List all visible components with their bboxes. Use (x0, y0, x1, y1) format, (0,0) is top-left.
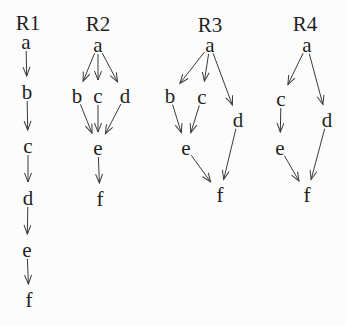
node-r3-d: d (233, 108, 244, 132)
edge-r1-a-b (26, 51, 27, 76)
node-r2-e: e (93, 136, 102, 160)
node-r1-b: b (22, 80, 33, 104)
node-r4-c: c (276, 87, 285, 111)
node-r2-f: f (97, 187, 104, 211)
node-r1-f: f (26, 288, 33, 312)
node-r2-b: b (72, 84, 83, 108)
node-r4-a: a (302, 33, 312, 57)
node-r2-c: c (93, 84, 102, 108)
node-r1-d: d (23, 186, 34, 210)
figure-canvas: R1abcdefR2abcdefR3abcdefR4acdef (0, 0, 346, 326)
node-r2-a: a (93, 33, 103, 57)
figure-background (0, 0, 346, 326)
node-r3-f: f (217, 183, 224, 207)
edge-r4-c-e (280, 108, 281, 132)
node-r3-b: b (165, 84, 176, 108)
edge-r1-b-c (27, 101, 28, 130)
node-r3-a: a (205, 33, 215, 57)
node-r4-d: d (322, 108, 333, 132)
edge-r1-d-e (27, 207, 28, 234)
node-r1-e: e (22, 238, 31, 262)
node-r3-c: c (197, 85, 206, 109)
node-r2-d: d (120, 84, 131, 108)
node-r3-e: e (181, 136, 190, 160)
dag-figure: R1abcdefR2abcdefR3abcdefR4acdef (0, 0, 346, 326)
node-r4-e: e (275, 136, 284, 160)
node-r4-f: f (304, 183, 311, 207)
node-r1-c: c (23, 134, 32, 158)
node-r1-a: a (21, 30, 31, 54)
